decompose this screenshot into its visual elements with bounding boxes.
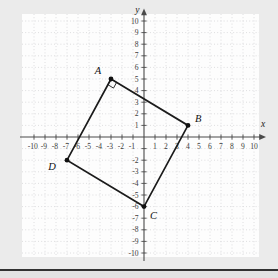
svg-text:5: 5	[135, 75, 139, 84]
page: -10-9-8-7-6-5-4-3-2-11234567891010987654…	[0, 0, 278, 278]
svg-text:-4: -4	[96, 142, 103, 151]
svg-text:-8: -8	[52, 142, 59, 151]
svg-text:7: 7	[135, 51, 139, 60]
svg-text:6: 6	[208, 142, 212, 151]
svg-text:10: 10	[250, 142, 258, 151]
svg-text:-7: -7	[63, 142, 70, 151]
vertex-dot-A	[109, 77, 114, 82]
vertex-label-A: A	[94, 65, 102, 76]
svg-text:9: 9	[135, 28, 139, 37]
svg-text:-3: -3	[107, 142, 114, 151]
coordinate-plane: -10-9-8-7-6-5-4-3-2-11234567891010987654…	[0, 0, 278, 268]
svg-text:-10: -10	[128, 249, 138, 258]
svg-text:10: 10	[131, 17, 139, 26]
svg-text:-10: -10	[28, 142, 38, 151]
svg-text:-8: -8	[132, 225, 139, 234]
svg-text:-9: -9	[41, 142, 48, 151]
svg-text:-2: -2	[118, 142, 125, 151]
svg-text:-4: -4	[132, 179, 139, 188]
svg-text:1: 1	[135, 121, 139, 130]
vertex-dot-D	[65, 158, 70, 163]
vertex-label-B: B	[195, 113, 202, 124]
svg-text:3: 3	[135, 98, 139, 107]
svg-text:6: 6	[135, 63, 139, 72]
svg-text:-5: -5	[132, 191, 139, 200]
svg-text:-7: -7	[132, 214, 139, 223]
svg-text:-2: -2	[132, 156, 139, 165]
svg-text:-9: -9	[132, 237, 139, 246]
svg-text:-1: -1	[129, 142, 136, 151]
vertex-dot-B	[186, 123, 191, 128]
vertex-dot-C	[142, 204, 147, 209]
svg-text:2: 2	[135, 109, 139, 118]
x-arrow-icon	[259, 134, 266, 140]
svg-text:-3: -3	[132, 167, 139, 176]
x-axis-label: x	[260, 119, 266, 129]
svg-text:5: 5	[197, 142, 201, 151]
svg-text:7: 7	[219, 142, 223, 151]
vertex-label-C: C	[150, 210, 158, 221]
vertex-label-D: D	[47, 161, 56, 172]
svg-text:4: 4	[186, 142, 190, 151]
svg-text:8: 8	[230, 142, 234, 151]
svg-text:1: 1	[153, 142, 157, 151]
svg-text:8: 8	[135, 40, 139, 49]
svg-text:2: 2	[164, 142, 168, 151]
plot-panel	[22, 14, 259, 257]
svg-text:-5: -5	[85, 142, 92, 151]
svg-text:9: 9	[241, 142, 245, 151]
y-arrow-icon	[141, 9, 147, 16]
footer-strip	[0, 271, 278, 278]
y-axis-label: y	[134, 5, 140, 15]
